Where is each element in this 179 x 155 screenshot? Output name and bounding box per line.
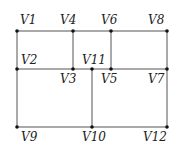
node-label-v10: V10 — [82, 130, 106, 144]
node-label-v4: V4 — [60, 13, 76, 27]
node-label-v3: V3 — [60, 72, 77, 86]
node-v10 — [90, 125, 94, 129]
node-label-v7: V7 — [148, 72, 165, 86]
node-label-v6: V6 — [101, 13, 118, 27]
node-v11 — [90, 67, 94, 71]
node-v3 — [71, 67, 75, 71]
graph-diagram: V1V4V6V8V2V3V11V5V7V9V10V12 — [0, 0, 179, 155]
node-label-v8: V8 — [148, 13, 165, 27]
node-label-v2: V2 — [21, 53, 37, 67]
labels-layer: V1V4V6V8V2V3V11V5V7V9V10V12 — [20, 13, 167, 144]
node-label-v5: V5 — [101, 72, 117, 86]
edges-layer — [17, 31, 167, 127]
node-label-v9: V9 — [21, 130, 38, 144]
node-v6 — [109, 29, 113, 33]
node-v7 — [165, 67, 169, 71]
node-v5 — [109, 67, 113, 71]
node-v12 — [165, 125, 169, 129]
node-v9 — [15, 125, 19, 129]
node-label-v1: V1 — [20, 13, 36, 27]
node-label-v11: V11 — [82, 53, 106, 67]
node-label-v12: V12 — [143, 130, 167, 144]
node-v1 — [15, 29, 19, 33]
node-v2 — [15, 67, 19, 71]
node-v8 — [165, 29, 169, 33]
node-v4 — [71, 29, 75, 33]
